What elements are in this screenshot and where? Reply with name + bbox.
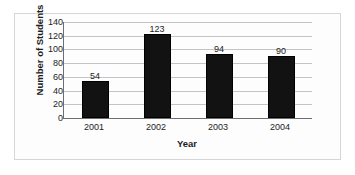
bar-value-label: 94 (214, 44, 224, 54)
chart-frame: Number of Students 140 120 100 80 60 40 … (14, 13, 341, 160)
bar-value-label: 123 (149, 24, 164, 34)
y-tick-label: 60 (53, 73, 63, 81)
bar[interactable]: 90 (268, 56, 295, 118)
bar-slot: 90 (250, 22, 312, 118)
chart-plot-wrapper: Number of Students 140 120 100 80 60 40 … (15, 14, 340, 159)
x-tick-label: 2002 (125, 121, 187, 133)
x-tick-label: 2003 (187, 121, 249, 133)
x-axis-title: Year (63, 138, 311, 149)
y-tick-label: 120 (48, 32, 63, 40)
bar-series: 54 123 94 90 (64, 22, 312, 118)
y-tick-label: 20 (53, 100, 63, 108)
x-tick-label: 2004 (249, 121, 311, 133)
bar-value-label: 54 (90, 71, 100, 81)
cut-off-title-trace (0, 0, 355, 7)
bar[interactable]: 54 (82, 81, 109, 118)
y-tick-label: 140 (48, 18, 63, 26)
bar-slot: 94 (188, 22, 250, 118)
bar-value-label: 90 (276, 46, 286, 56)
y-tick-label: 80 (53, 59, 63, 67)
y-tick-label: 100 (48, 45, 63, 53)
x-tick-label: 2001 (63, 121, 125, 133)
x-axis-tick-labels: 2001 2002 2003 2004 (63, 121, 311, 133)
bar[interactable]: 123 (144, 34, 171, 118)
bar[interactable]: 94 (206, 54, 233, 118)
plot-area: 54 123 94 90 (63, 22, 312, 119)
y-tick-label: 40 (53, 87, 63, 95)
bar-slot: 54 (64, 22, 126, 118)
bar-slot: 123 (126, 22, 188, 118)
y-axis-tick-labels: 140 120 100 80 60 40 20 0 (37, 22, 63, 118)
